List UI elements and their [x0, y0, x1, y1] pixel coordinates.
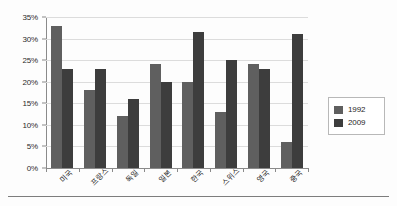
bar[interactable]	[150, 64, 161, 168]
x-axis-tick-label: 한국	[188, 167, 206, 185]
bar[interactable]	[248, 64, 259, 168]
x-axis-tick-label: 영국	[254, 167, 272, 185]
y-axis-tick-label: 0%	[27, 164, 38, 173]
bar-group	[46, 17, 79, 168]
bar-group	[243, 17, 276, 168]
bar-group	[79, 17, 112, 168]
legend-swatch-icon	[334, 106, 343, 114]
bar[interactable]	[117, 116, 128, 168]
x-axis-tick-label: 중국	[287, 167, 305, 185]
y-axis-tick-label: 25%	[23, 56, 38, 65]
bar-group	[144, 17, 177, 168]
bar-group	[275, 17, 308, 168]
bar[interactable]	[226, 60, 237, 168]
bar-group	[112, 17, 145, 168]
chart-legend: 1992 2009	[328, 97, 385, 135]
x-axis-tick-mark	[308, 168, 309, 172]
y-axis-tick-label: 35%	[23, 13, 38, 22]
x-axis-tick-label: 독일	[123, 167, 141, 185]
chart-figure: 0%5%10%15%20%25%30%35% 미국프랑스독일일본한국스위스영국중…	[0, 0, 397, 206]
y-axis-tick-label: 15%	[23, 99, 38, 108]
bar[interactable]	[281, 142, 292, 168]
x-axis-tick-label: 미국	[57, 167, 75, 185]
bar[interactable]	[62, 69, 73, 168]
bar[interactable]	[128, 99, 139, 168]
y-axis-tick-label: 10%	[23, 120, 38, 129]
x-axis-tick-labels: 미국프랑스독일일본한국스위스영국중국	[46, 170, 308, 204]
bar-group	[177, 17, 210, 168]
legend-swatch-icon	[334, 119, 343, 127]
bar[interactable]	[51, 26, 62, 168]
bar-group	[210, 17, 243, 168]
y-axis-tick-label: 5%	[27, 142, 38, 151]
legend-item[interactable]: 1992	[334, 103, 378, 116]
legend-item-label: 1992	[348, 105, 365, 114]
page-divider	[8, 196, 389, 197]
bar[interactable]	[215, 112, 226, 168]
bar[interactable]	[84, 90, 95, 168]
y-axis-tick-labels: 0%5%10%15%20%25%30%35%	[0, 17, 44, 168]
bar[interactable]	[95, 69, 106, 168]
bar[interactable]	[292, 34, 303, 168]
legend-item[interactable]: 2009	[334, 116, 378, 129]
y-axis-tick-label: 20%	[23, 77, 38, 86]
x-axis-tick-label: 일본	[156, 167, 174, 185]
y-axis-tick-label: 30%	[23, 34, 38, 43]
bar[interactable]	[182, 82, 193, 168]
bar[interactable]	[259, 69, 270, 168]
plot-area	[46, 17, 308, 168]
bar-groups	[46, 17, 308, 168]
bar[interactable]	[161, 82, 172, 168]
bar[interactable]	[193, 32, 204, 168]
legend-item-label: 2009	[348, 118, 365, 127]
